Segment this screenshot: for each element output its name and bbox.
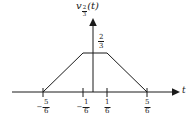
y-axis-label-argument: (t) [87, 1, 99, 11]
tick-label-minus-1-6-numerator: 1 [83, 99, 89, 106]
y-axis-label-subscript-numerator: 2 [82, 5, 87, 11]
y-axis-label: v 2 3 (t) [76, 1, 99, 13]
peak-value-denominator: 3 [98, 43, 104, 50]
peak-value-fraction: 2 3 [98, 34, 104, 50]
tick-label-minus-1-6-denominator: 6 [83, 108, 89, 115]
tick-label-plus-5-6-denominator: 6 [144, 108, 150, 115]
y-axis-label-subscript-denominator: 3 [83, 12, 87, 18]
y-axis-arrowhead [89, 18, 97, 26]
tick-label-minus-1-6-fraction: 1 6 [83, 99, 89, 115]
y-axis-label-subscript-fraction: 2 3 [82, 5, 87, 17]
tick-label-minus-1-6-sign: − [77, 103, 83, 111]
tick-label-plus-1-6: 1 6 [104, 99, 111, 115]
plot-canvas [0, 0, 194, 126]
x-axis-label: t [182, 86, 186, 95]
tick-label-plus-5-6-fraction: 5 6 [144, 99, 150, 115]
peak-value-numerator: 2 [98, 34, 104, 41]
tick-label-plus-1-6-numerator: 1 [104, 99, 110, 106]
tick-label-minus-1-6: − 1 6 [77, 99, 90, 115]
waveform-figure: v 2 3 (t) 2 3 − 5 6 − 1 6 [0, 0, 194, 126]
peak-value-label: 2 3 [98, 33, 104, 50]
tick-label-minus-5-6-sign: − [37, 103, 43, 111]
tick-label-minus-5-6: − 5 6 [37, 99, 50, 115]
tick-label-plus-1-6-denominator: 6 [104, 108, 110, 115]
tick-label-plus-5-6: 5 6 [144, 99, 151, 115]
tick-label-minus-5-6-denominator: 6 [43, 108, 49, 115]
tick-label-minus-5-6-fraction: 5 6 [43, 99, 49, 115]
x-axis-arrowhead [172, 88, 180, 96]
y-axis-label-variable: v [76, 1, 82, 11]
tick-label-minus-5-6-numerator: 5 [43, 99, 49, 106]
tick-label-plus-5-6-numerator: 5 [144, 99, 150, 106]
tick-label-plus-1-6-fraction: 1 6 [104, 99, 110, 115]
waveform-trace [43, 53, 147, 92]
